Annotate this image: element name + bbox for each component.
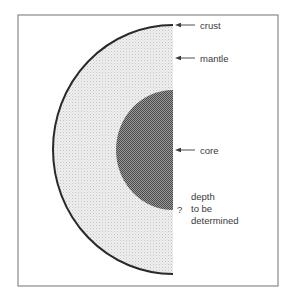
depth-label-line3: determined — [191, 215, 239, 226]
crust-label: crust — [200, 20, 221, 31]
question-mark: ? — [177, 204, 182, 215]
earth-structure-diagram: crust mantle core ? depth to be determin… — [0, 0, 292, 301]
depth-label-line1: depth — [191, 191, 215, 202]
depth-label-line2: to be — [191, 203, 212, 214]
mantle-label: mantle — [200, 53, 229, 64]
core-label: core — [200, 145, 218, 156]
